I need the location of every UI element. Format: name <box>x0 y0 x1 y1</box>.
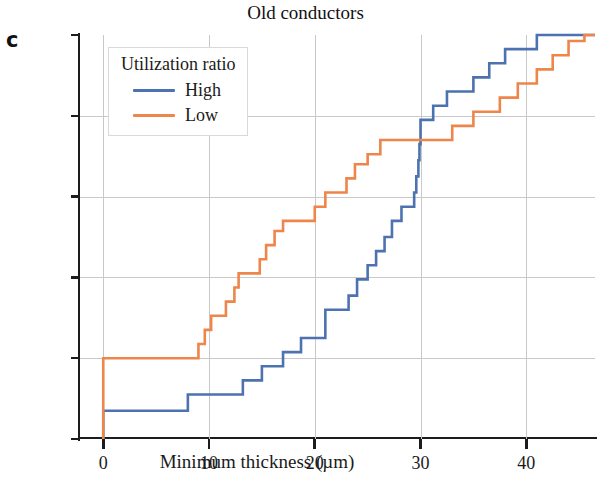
legend-swatch-high <box>133 89 175 92</box>
legend-label: Low <box>185 105 218 126</box>
legend-swatch-low <box>133 114 175 117</box>
x-axis-tick <box>419 439 422 449</box>
x-axis-tick <box>525 439 528 449</box>
panel-label: c <box>6 28 18 52</box>
legend-title: Utilization ratio <box>121 54 235 75</box>
x-axis-label: Minimum thickness (µm) <box>160 451 355 473</box>
y-axis-tick <box>71 276 80 279</box>
legend-entries: HighLow <box>119 78 235 128</box>
x-axis-tick <box>208 439 211 449</box>
x-axis-tick <box>313 439 316 449</box>
x-axis-tick-label: 40 <box>517 453 535 474</box>
legend-label: High <box>185 80 221 101</box>
legend-entry[interactable]: High <box>119 78 235 103</box>
x-axis-tick-label: 0 <box>99 453 108 474</box>
x-axis-tick <box>102 439 105 449</box>
legend: Utilization ratio HighLow <box>108 47 248 136</box>
x-axis-tick-label: 30 <box>412 453 430 474</box>
legend-entry[interactable]: Low <box>119 103 235 128</box>
chart-root: c Old conductors Proportion Minimum thic… <box>0 0 611 500</box>
y-axis-tick <box>71 34 80 37</box>
y-axis-tick <box>71 195 80 198</box>
x-axis-tick-label: 10 <box>200 453 218 474</box>
chart-title: Old conductors <box>0 2 611 24</box>
x-axis-tick-label: 20 <box>306 453 324 474</box>
y-axis-tick <box>71 438 80 441</box>
plot-area: 0,00,20,40,60,81,0010203040 Utilization … <box>80 35 595 439</box>
y-axis-tick <box>71 115 80 118</box>
y-axis-tick <box>71 357 80 360</box>
